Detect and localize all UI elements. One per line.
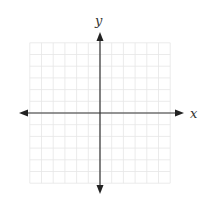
y-axis-up-arrow-icon — [97, 32, 104, 41]
x-axis-left-arrow-icon — [19, 110, 28, 117]
x-axis-label: x — [190, 106, 198, 121]
x-axis-right-arrow-icon — [175, 110, 184, 117]
y-axis-down-arrow-icon — [97, 185, 104, 194]
coordinate-plane: y x — [0, 0, 209, 202]
y-axis-label: y — [94, 13, 103, 28]
